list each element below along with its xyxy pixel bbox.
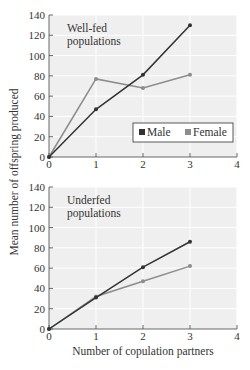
y-tick-label: 140 [29, 181, 46, 193]
data-point [141, 279, 145, 283]
data-point [188, 240, 192, 244]
panel-title: populations [67, 35, 121, 48]
data-point [47, 155, 51, 159]
data-point [94, 77, 98, 81]
y-tick-label: 80 [34, 70, 46, 82]
y-tick-label: 120 [29, 201, 46, 213]
chart-panel-well-fed: 02040608010012014001234Well-fedpopulatio… [29, 9, 241, 170]
y-tick-label: 120 [29, 29, 46, 41]
x-tick-label: 4 [234, 330, 240, 342]
chart-figure: 02040608010012014001234Well-fedpopulatio… [0, 0, 250, 370]
x-tick-label: 3 [187, 330, 193, 342]
y-tick-label: 0 [40, 151, 46, 163]
y-tick-label: 100 [29, 50, 46, 62]
y-tick-label: 0 [40, 323, 46, 335]
data-point [94, 296, 98, 300]
legend-swatch-male [139, 129, 145, 135]
panel-title: Well-fed [67, 22, 107, 34]
legend-swatch-female [185, 129, 191, 135]
x-tick-label: 2 [140, 158, 146, 170]
data-point [188, 73, 192, 77]
x-tick-label: 1 [93, 330, 99, 342]
x-tick-label: 0 [46, 158, 52, 170]
y-tick-label: 40 [34, 110, 46, 122]
y-tick-label: 60 [34, 262, 46, 274]
x-tick-label: 0 [46, 330, 52, 342]
y-tick-label: 80 [34, 242, 46, 254]
x-tick-label: 4 [234, 158, 240, 170]
data-point [141, 265, 145, 269]
data-point [141, 86, 145, 90]
panel-title: populations [67, 207, 121, 220]
panel-title: Underfed [67, 194, 111, 206]
x-tick-label: 2 [140, 330, 146, 342]
data-point [94, 107, 98, 111]
x-axis-label: Number of copulation partners [72, 345, 214, 358]
x-tick-label: 1 [93, 158, 99, 170]
legend: MaleFemale [133, 123, 233, 142]
y-tick-label: 60 [34, 90, 46, 102]
data-point [188, 23, 192, 27]
data-point [141, 73, 145, 77]
y-tick-label: 100 [29, 222, 46, 234]
y-tick-label: 20 [34, 303, 46, 315]
y-tick-label: 40 [34, 282, 46, 294]
x-tick-label: 3 [187, 158, 193, 170]
y-tick-label: 20 [34, 131, 46, 143]
y-tick-label: 140 [29, 9, 46, 21]
y-axis-label: Mean number of offspring produced [8, 88, 21, 255]
chart-panel-underfed: 02040608010012014001234Underfedpopulatio… [29, 181, 241, 342]
data-point [47, 327, 51, 331]
data-point [188, 264, 192, 268]
legend-label-female: Female [193, 126, 227, 138]
legend-label-male: Male [147, 126, 171, 138]
